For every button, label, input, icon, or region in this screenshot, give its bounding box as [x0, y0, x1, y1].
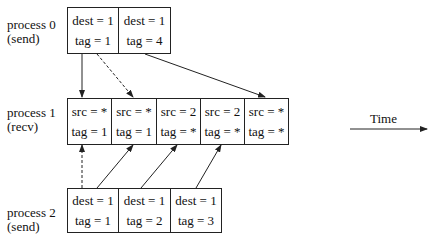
dest-value: dest = 1: [72, 191, 113, 211]
process-1-recv-5: src = * tag = *: [245, 99, 288, 144]
process-1-recv-2: src = * tag = 1: [112, 99, 157, 144]
process-1-recv-3: src = 2 tag = *: [157, 99, 201, 144]
arrow-p0m1-to-p1r2-dashed: [97, 54, 133, 97]
dest-value: dest = 1: [124, 191, 165, 211]
process-0-message-1: dest = 1 tag = 1: [68, 8, 119, 53]
process-2-message-2: dest = 1 tag = 2: [119, 189, 171, 232]
process-0-message-2: dest = 1 tag = 4: [119, 8, 170, 53]
arrow-p2m2-to-p1r3: [141, 145, 177, 188]
time-axis-label: Time: [370, 111, 397, 127]
process-2-label: process 2 (send): [7, 206, 56, 234]
tag-value: tag = *: [248, 122, 284, 142]
tag-value: tag = 1: [71, 122, 107, 142]
process-1-role: (recv): [7, 120, 56, 134]
process-2-message-1: dest = 1 tag = 1: [68, 189, 119, 232]
process-2-send-queue: dest = 1 tag = 1 dest = 1 tag = 2 dest =…: [67, 188, 222, 233]
process-1-recv-queue: src = * tag = 1 src = * tag = 1 src = 2 …: [67, 98, 289, 145]
src-value: src = 2: [161, 102, 197, 122]
process-2-message-3: dest = 1 tag = 3: [171, 189, 221, 232]
process-1-name: process 1: [7, 106, 56, 120]
process-0-role: (send): [7, 32, 56, 46]
tag-value: tag = *: [160, 122, 196, 142]
process-1-label: process 1 (recv): [7, 106, 56, 134]
process-2-name: process 2: [7, 206, 56, 220]
process-0-name: process 0: [7, 18, 56, 32]
arrow-p0m2-to-p1r5: [145, 54, 265, 97]
dest-value: dest = 1: [175, 191, 216, 211]
dest-value: dest = 1: [72, 11, 113, 31]
process-0-send-queue: dest = 1 tag = 1 dest = 1 tag = 4: [67, 7, 171, 54]
tag-value: tag = 2: [126, 211, 162, 231]
tag-value: tag = 1: [75, 31, 111, 51]
process-0-label: process 0 (send): [7, 18, 56, 46]
tag-value: tag = *: [204, 122, 240, 142]
arrow-p2m3-to-p1r4: [196, 145, 221, 188]
process-1-recv-4: src = 2 tag = *: [201, 99, 245, 144]
tag-value: tag = 3: [178, 211, 214, 231]
src-value: src = *: [72, 102, 108, 122]
tag-value: tag = 4: [126, 31, 162, 51]
tag-value: tag = 1: [75, 211, 111, 231]
src-value: src = *: [116, 102, 152, 122]
src-value: src = 2: [205, 102, 241, 122]
dest-value: dest = 1: [124, 11, 165, 31]
process-2-role: (send): [7, 220, 56, 234]
arrow-p2m1-to-p1r2: [97, 145, 133, 188]
tag-value: tag = 1: [116, 122, 152, 142]
process-1-recv-1: src = * tag = 1: [68, 99, 112, 144]
src-value: src = *: [249, 102, 285, 122]
